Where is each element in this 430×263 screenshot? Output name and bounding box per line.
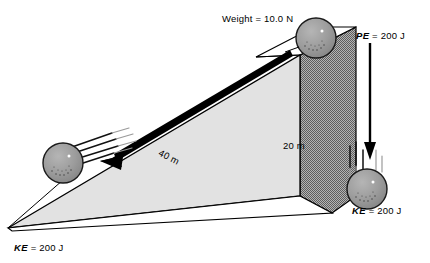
- pe-value: = 200 J: [369, 30, 405, 41]
- ke-value-right: = 200 J: [366, 205, 402, 216]
- ball-ramp-bottom: [43, 143, 83, 183]
- ball-fallen: [347, 169, 387, 209]
- ke-symbol-left: KE: [14, 242, 28, 253]
- diagram-canvas: Weight = 10.0 N PE = 200 J KE = 200 J KE…: [0, 0, 430, 263]
- ball-top: [296, 18, 336, 58]
- ke-value-left: = 200 J: [28, 242, 64, 253]
- height-label: 20 m: [283, 140, 305, 151]
- pe-symbol: PE: [356, 30, 369, 41]
- ke-bottom-left-label: KE = 200 J: [14, 242, 63, 253]
- weight-label: Weight = 10.0 N: [222, 13, 293, 24]
- ke-symbol-right: KE: [352, 205, 366, 216]
- ke-right-label: KE = 200 J: [352, 205, 401, 216]
- pe-drop-arrow: [364, 43, 376, 160]
- pe-label: PE = 200 J: [356, 30, 405, 41]
